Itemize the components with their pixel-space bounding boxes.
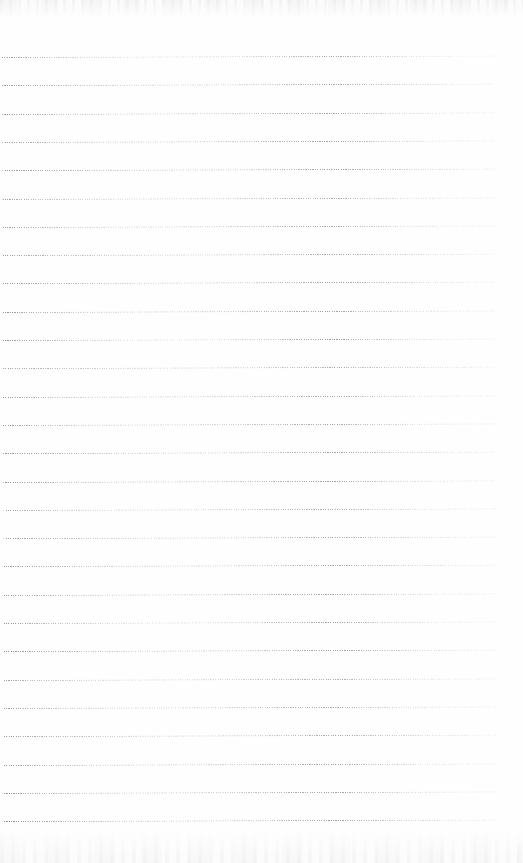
rule-line <box>3 537 497 539</box>
rule-line <box>4 678 498 680</box>
rule-line <box>2 225 496 227</box>
rule-line <box>3 452 497 454</box>
rule-line <box>3 367 497 369</box>
scanned-page <box>0 0 523 863</box>
rule-line <box>2 141 496 143</box>
rule-line <box>3 424 497 426</box>
rule-line <box>3 508 497 510</box>
rule-line <box>3 310 497 312</box>
rule-line <box>4 735 498 737</box>
rule-line <box>2 197 496 199</box>
rule-line <box>3 565 497 567</box>
rule-line <box>4 650 498 652</box>
rule-line <box>4 820 498 822</box>
rule-line <box>3 593 497 595</box>
rule-line <box>4 791 498 793</box>
rule-line <box>2 112 496 114</box>
rule-line <box>3 254 497 256</box>
rule-line <box>2 84 496 86</box>
rule-line <box>2 169 496 171</box>
rule-line <box>3 480 497 482</box>
rule-line <box>4 707 498 709</box>
rule-line <box>3 282 497 284</box>
rule-line <box>4 763 498 765</box>
rule-line <box>3 395 497 397</box>
rule-line <box>4 622 498 624</box>
ruled-lines-layer <box>0 0 523 863</box>
rule-line <box>3 339 497 341</box>
rule-line <box>2 56 496 58</box>
